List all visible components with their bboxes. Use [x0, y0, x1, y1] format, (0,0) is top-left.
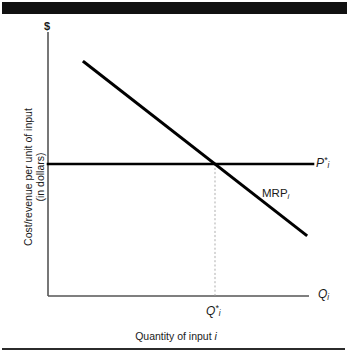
- y-axis-title-line1: Cost/revenue per unit of input: [22, 108, 34, 246]
- figure-root: $ P*i MRPi Qi Q*i Quantity of input i Co…: [0, 0, 352, 362]
- price-label-subscript: i: [327, 161, 329, 170]
- x-axis-end-label: Qi: [318, 288, 329, 302]
- y-axis-unit-label: $: [44, 21, 50, 32]
- plot-area: [0, 14, 352, 344]
- mrp-label-subscript: i: [288, 192, 290, 201]
- x-axis-title-italic: i: [215, 330, 217, 342]
- price-line-label: P*i: [316, 156, 329, 171]
- mrp-curve-label: MRPi: [262, 188, 289, 201]
- x-axis-title: Quantity of input i: [0, 331, 352, 342]
- x-axis-title-text: Quantity of input: [135, 330, 214, 342]
- y-axis-title-line2: (in dollars): [35, 87, 46, 267]
- mrp-label-base: MRP: [262, 187, 288, 199]
- bottom-rule: [2, 348, 345, 350]
- price-label-base: P: [316, 156, 324, 170]
- mrp-curve-line: [84, 62, 306, 235]
- q-axis-subscript: i: [327, 293, 329, 302]
- y-axis-title: Cost/revenue per unit of input (in dolla…: [23, 87, 45, 267]
- q-star-subscript: i: [219, 309, 221, 318]
- top-rule-band: [2, 2, 347, 14]
- q-star-base: Q: [206, 304, 215, 318]
- q-axis-base: Q: [318, 287, 327, 301]
- equilibrium-quantity-label: Q*i: [206, 304, 221, 319]
